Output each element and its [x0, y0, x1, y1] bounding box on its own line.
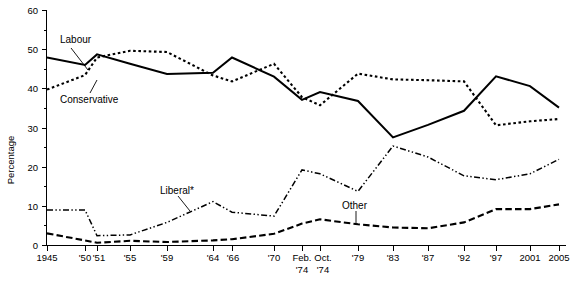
x-tick-label: '55: [124, 252, 136, 263]
x-tick-label-oct74-month: Oct.: [314, 252, 331, 263]
x-tick-label: '66: [227, 252, 239, 263]
axes: [47, 10, 567, 246]
x-tick-label: '70: [268, 252, 280, 263]
series-line-other: [47, 204, 559, 242]
series-line-liberal: [47, 146, 559, 236]
y-tick-label: 50: [27, 44, 38, 55]
election-vote-share-chart: 0 10 20 30 40 50 60 Percentage: [0, 0, 576, 281]
y-axis-tick-labels: 0 10 20 30 40 50 60: [27, 5, 38, 251]
x-tick-label: '97: [490, 252, 502, 263]
y-tick-label: 40: [27, 83, 38, 94]
leader-liberal: [178, 196, 190, 211]
y-tick-label: 10: [27, 201, 38, 212]
data-series-group: [47, 51, 559, 243]
x-tick-label: 2001: [519, 252, 540, 263]
series-annotations: Labour Conservative Liberal* Other: [60, 34, 368, 211]
y-tick-label: 30: [27, 123, 38, 134]
y-tick-label: 0: [33, 240, 38, 251]
x-tick-label-feb74-month: Feb.: [292, 252, 311, 263]
x-tick-label: '92: [458, 252, 470, 263]
y-axis-major-ticks: [42, 11, 47, 246]
series-line-labour: [47, 54, 559, 137]
chart-svg: 0 10 20 30 40 50 60 Percentage: [0, 0, 576, 281]
x-tick-label: '79: [352, 252, 364, 263]
x-tick-label: 2005: [548, 252, 569, 263]
leader-labour: [71, 48, 88, 70]
y-tick-label: 20: [27, 162, 38, 173]
x-axis-ticks: [47, 246, 559, 251]
x-axis-tick-labels: 1945 '50 '51 '55 '59 '64 '66 '70 Feb. '7…: [36, 252, 569, 275]
y-tick-label: 60: [27, 5, 38, 16]
x-tick-label: '50: [79, 252, 91, 263]
x-tick-label: '59: [161, 252, 173, 263]
x-tick-label: '64: [207, 252, 219, 263]
leader-conservative: [90, 80, 97, 93]
x-tick-label: '51: [93, 252, 105, 263]
series-label-other: Other: [342, 200, 368, 211]
annotation-leaders: [71, 48, 356, 223]
series-label-labour: Labour: [60, 34, 92, 45]
x-tick-label-oct74-year: '74: [317, 264, 329, 275]
x-tick-label: '87: [422, 252, 434, 263]
x-tick-label-feb74-year: '74: [296, 264, 308, 275]
series-label-conservative: Conservative: [60, 94, 119, 105]
x-tick-label: 1945: [36, 252, 57, 263]
x-tick-label: '83: [387, 252, 399, 263]
y-axis-title: Percentage: [5, 136, 16, 185]
series-label-liberal: Liberal*: [160, 185, 194, 196]
